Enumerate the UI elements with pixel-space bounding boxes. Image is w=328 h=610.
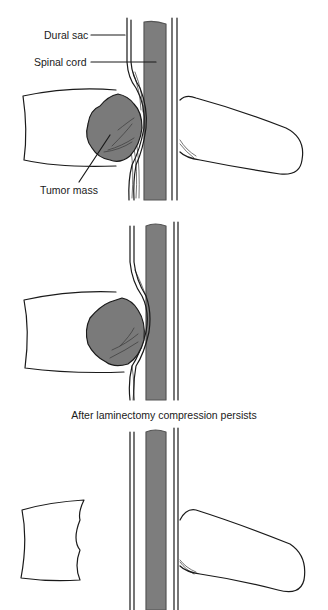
vertebral-lamina-right [180,96,303,174]
vertebral-body-left-3 [21,500,84,581]
panel-1 [23,18,303,200]
spinal-cord [144,21,166,200]
panel-2 [24,222,178,400]
label-dural-sac: Dural sac [44,30,88,41]
label-spinal-cord: Spinal cord [34,57,87,68]
figure-illustration [0,0,328,610]
spinal-tumor-figure: Dural sac Spinal cord Tumor mass After l… [0,0,328,610]
panel-3 [21,428,305,610]
label-tumor-mass: Tumor mass [40,185,98,196]
vertebral-lamina-right-3 [180,510,305,592]
spinal-cord-2 [146,224,166,400]
tumor-mass [87,94,142,161]
caption-after-laminectomy: After laminectomy compression persists [0,410,328,421]
spinal-cord-3 [146,430,166,610]
